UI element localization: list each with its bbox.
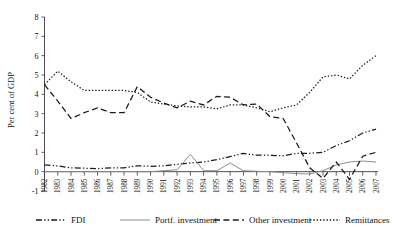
chart-legend: FDIPortf. investmentOther investmentRemi… (36, 215, 390, 225)
x-tick-label: 2006 (359, 178, 367, 193)
series-line-portf-investment (45, 154, 377, 174)
y-tick-label: 1 (35, 148, 39, 157)
y-axis: -1012345678 (32, 13, 45, 196)
y-tick-label: 4 (35, 90, 39, 99)
x-tick-label: 1990 (147, 178, 155, 193)
y-axis-label-text: Per cent of GDP (6, 72, 16, 128)
line-chart: Per cent of GDP -1012345678 198219831984… (0, 0, 398, 242)
y-tick-label: 6 (35, 52, 39, 61)
x-tick-label: 1986 (94, 178, 102, 193)
legend-label-portf-investment: Portf. investment (155, 215, 217, 225)
x-tick-label: 1996 (227, 178, 235, 193)
y-tick-label: 8 (35, 13, 39, 22)
y-tick-label: 5 (35, 71, 39, 80)
x-tick-label: 2002 (306, 178, 314, 193)
y-tick-label: 3 (35, 110, 39, 119)
y-tick-label: 7 (35, 32, 39, 41)
x-tick-label: 2000 (280, 178, 288, 193)
series-line-fdi (45, 129, 377, 168)
x-tick-label: 2003 (320, 178, 328, 193)
x-tick-label: 1991 (160, 178, 168, 193)
legend-label-other-investment: Other investment (249, 215, 312, 225)
y-axis-label: Per cent of GDP (6, 72, 16, 128)
x-tick-label: 1982 (41, 178, 49, 193)
y-tick-label: -1 (32, 187, 39, 196)
x-tick-label: 1984 (68, 178, 76, 193)
x-tick-label: 1993 (187, 178, 195, 193)
x-tick-label: 1988 (121, 178, 129, 193)
x-tick-label: 1998 (253, 178, 261, 193)
x-tick-label: 1999 (267, 178, 275, 193)
x-tick-label: 1997 (240, 178, 248, 193)
x-tick-label: 1992 (174, 178, 182, 193)
x-tick-label: 2004 (333, 178, 341, 193)
legend-label-remittances: Remittances (345, 215, 390, 225)
x-tick-label: 2005 (346, 178, 354, 193)
x-tick-label: 1989 (134, 178, 142, 193)
x-axis: 1982198319841985198619871988198919901991… (41, 172, 381, 193)
x-tick-label: 1987 (107, 178, 115, 193)
x-tick-label: 2007 (373, 178, 381, 193)
series-line-other-investment (45, 85, 377, 180)
series-line-remittances (45, 56, 377, 112)
x-tick-label: 1994 (200, 178, 208, 193)
y-tick-label: 0 (35, 168, 39, 177)
x-tick-label: 1985 (81, 178, 89, 193)
x-tick-label: 1995 (213, 178, 221, 193)
figure-container: Per cent of GDP -1012345678 198219831984… (0, 0, 398, 242)
x-tick-label: 2001 (293, 178, 301, 193)
x-tick-label: 1983 (54, 178, 62, 193)
y-tick-label: 2 (35, 129, 39, 138)
legend-label-fdi: FDI (71, 215, 86, 225)
series-layer (45, 56, 377, 180)
